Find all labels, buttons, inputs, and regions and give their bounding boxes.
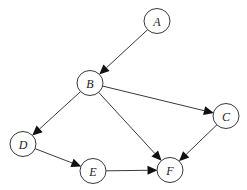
nodes-layer: ABCDEF [10,9,239,184]
edge-line [107,29,148,67]
edge-line [105,170,147,171]
arrowhead-icon [147,166,157,175]
edge-a-to-b [99,29,148,74]
edge-line [98,92,154,153]
node-a: A [144,9,170,34]
node-b: B [77,71,103,96]
arrowhead-icon [203,106,214,115]
node-label: D [18,138,28,152]
edge-line [40,91,81,128]
edge-line [35,148,72,162]
node-label: A [152,15,161,29]
node-c: C [213,104,239,129]
edge-b-to-d [32,91,81,135]
node-label: C [222,110,231,124]
node-label: F [165,164,174,178]
edge-d-to-e [35,148,82,167]
edge-b-to-c [102,86,214,115]
edge-e-to-f [105,166,157,175]
edge-b-to-f [98,92,161,161]
directed-graph: ABCDEF [0,0,247,190]
arrowhead-icon [70,159,81,167]
node-f: F [157,158,183,183]
node-d: D [10,132,36,157]
node-label: B [86,77,94,91]
edge-line [102,86,204,111]
edge-line [186,125,217,155]
edge-c-to-f [179,125,217,162]
edges-layer [32,29,217,174]
node-label: E [88,165,97,179]
node-e: E [80,159,106,184]
